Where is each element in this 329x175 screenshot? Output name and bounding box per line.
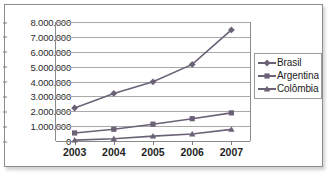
data-point bbox=[229, 110, 234, 115]
legend-label: Brasil bbox=[277, 57, 301, 68]
data-point bbox=[110, 90, 117, 97]
series-line bbox=[75, 30, 232, 108]
legend-marker-diamond-icon bbox=[257, 57, 277, 68]
chart-legend: BrasilArgentinaColômbia bbox=[254, 53, 322, 99]
data-point bbox=[190, 116, 195, 121]
legend-key-marker bbox=[262, 84, 272, 94]
legend-marker-square-icon bbox=[257, 70, 277, 81]
legend-item-argentina: Argentina bbox=[257, 69, 319, 82]
legend-marker-triangle-icon bbox=[257, 83, 277, 94]
legend-key-marker bbox=[262, 58, 272, 68]
data-point bbox=[150, 122, 155, 127]
series-brasil bbox=[71, 26, 235, 111]
data-point bbox=[111, 127, 116, 132]
series-colmbia bbox=[71, 126, 234, 142]
chart-figure: 01.000.0002.000.0003.000.0004.000.0005.0… bbox=[4, 4, 323, 167]
legend-key-marker bbox=[262, 71, 272, 81]
legend-item-brasil: Brasil bbox=[257, 56, 319, 69]
legend-label: Argentina bbox=[277, 70, 319, 81]
data-point bbox=[72, 130, 77, 135]
legend-item-colmbia: Colômbia bbox=[257, 82, 319, 95]
data-point bbox=[150, 78, 157, 85]
legend-label: Colômbia bbox=[277, 83, 318, 94]
data-point bbox=[71, 105, 78, 112]
